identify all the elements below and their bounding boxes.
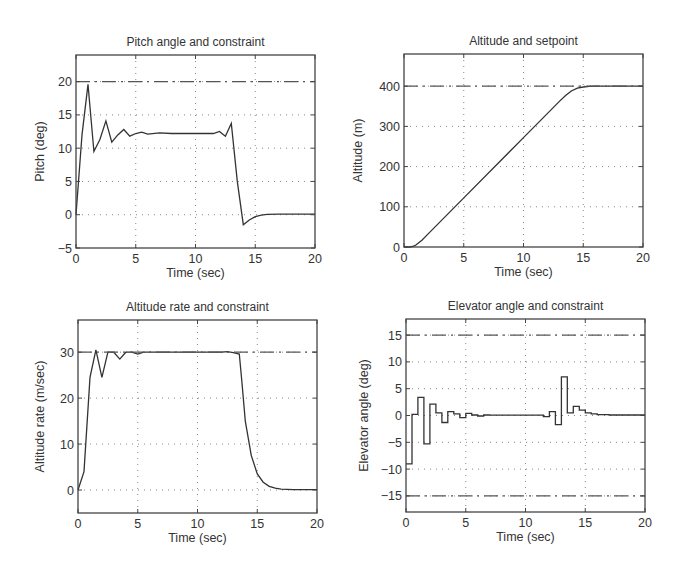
y-axis-label: Elevator angle (deg) [357, 359, 371, 472]
chart-title: Elevator angle and constraint [448, 299, 604, 313]
y-tick-label: 0 [393, 241, 400, 255]
x-tick-label: 5 [462, 516, 469, 530]
data-line [76, 84, 315, 224]
y-axis-label: Altitude rate (m/sec) [33, 361, 47, 473]
y-tick-label: 0 [395, 409, 402, 423]
x-tick-label: 20 [308, 252, 322, 266]
y-tick-label: −15 [381, 489, 402, 503]
y-tick-label: 5 [395, 382, 402, 396]
y-tick-label: 5 [65, 175, 72, 189]
x-tick-label: 0 [401, 251, 408, 265]
x-axis-label: Time (sec) [496, 530, 555, 544]
subplot-4: 05101520−15−10−5051015Elevator angle and… [357, 299, 652, 544]
x-tick-label: 0 [73, 252, 80, 266]
x-tick-label: 20 [636, 251, 650, 265]
y-tick-label: 30 [60, 346, 74, 360]
x-tick-label: 15 [578, 516, 592, 530]
y-tick-label: 15 [58, 108, 72, 122]
x-axis-label: Time (sec) [168, 531, 227, 545]
y-tick-label: −5 [58, 242, 72, 256]
x-axis-label: Time (sec) [166, 266, 225, 280]
y-axis-label: Pitch (deg) [33, 121, 47, 181]
x-tick-label: 0 [75, 517, 82, 531]
x-tick-label: 20 [638, 516, 652, 530]
y-tick-label: 0 [67, 484, 74, 498]
x-tick-label: 15 [576, 251, 590, 265]
x-tick-label: 10 [519, 516, 533, 530]
x-tick-label: 10 [189, 252, 203, 266]
figure-canvas: 05101520−505101520Pitch angle and constr… [0, 0, 689, 580]
chart-title: Altitude rate and constraint [126, 300, 269, 314]
y-axis-label: Altitude (m) [351, 119, 365, 183]
y-tick-label: 20 [60, 392, 74, 406]
y-tick-label: 400 [379, 80, 400, 94]
y-tick-label: 200 [379, 160, 400, 174]
data-line [406, 377, 645, 464]
y-tick-label: 20 [58, 75, 72, 89]
x-axis-label: Time (sec) [494, 265, 553, 279]
x-tick-label: 0 [403, 516, 410, 530]
x-tick-label: 15 [250, 517, 264, 531]
subplot-1: 05101520−505101520Pitch angle and constr… [33, 35, 322, 280]
y-tick-label: 10 [58, 142, 72, 156]
chart-title: Pitch angle and constraint [126, 35, 265, 49]
x-tick-label: 20 [310, 517, 324, 531]
y-tick-label: 10 [60, 438, 74, 452]
y-tick-label: 15 [388, 329, 402, 343]
y-tick-label: 300 [379, 120, 400, 134]
x-tick-label: 5 [134, 517, 141, 531]
y-tick-label: 0 [65, 208, 72, 222]
x-tick-label: 5 [132, 252, 139, 266]
y-tick-label: −10 [381, 463, 402, 477]
x-tick-label: 5 [460, 251, 467, 265]
subplot-2: 051015200100200300400Altitude and setpoi… [351, 34, 650, 279]
x-tick-label: 10 [517, 251, 531, 265]
y-tick-label: −5 [388, 436, 402, 450]
y-tick-label: 100 [379, 200, 400, 214]
x-tick-label: 10 [191, 517, 205, 531]
data-line [78, 350, 317, 490]
chart-title: Altitude and setpoint [469, 34, 578, 48]
subplot-3: 051015200102030Altitude rate and constra… [33, 300, 324, 545]
y-tick-label: 10 [388, 355, 402, 369]
x-tick-label: 15 [248, 252, 262, 266]
